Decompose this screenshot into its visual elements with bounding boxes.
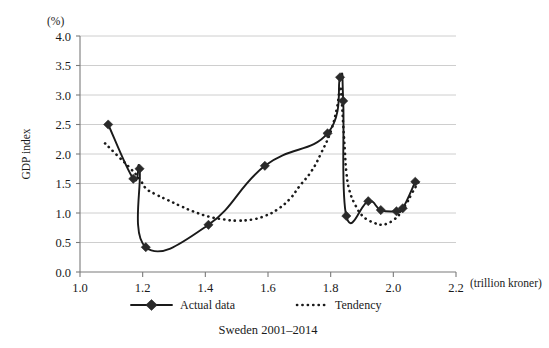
legend-label-actual-data: Actual data (180, 298, 236, 312)
y-axis-tick-labels: 0.00.51.01.52.02.53.03.54.0 (55, 30, 71, 280)
y-tick-label: 0.5 (55, 236, 71, 250)
y-tick-label: 1.0 (55, 207, 71, 221)
x-tick-label: 1.2 (135, 281, 151, 295)
x-tick-label: 2.0 (386, 281, 402, 295)
y-axis-unit-label: (%) (47, 15, 64, 28)
chart-background (0, 0, 549, 348)
x-tick-label: 1.8 (323, 281, 339, 295)
chart-figure: 0.00.51.01.52.02.53.03.54.0 1.01.21.41.6… (0, 0, 549, 348)
legend-label-tendency: Tendency (335, 298, 381, 312)
y-tick-label: 2.0 (55, 148, 71, 162)
y-tick-label: 0.0 (55, 266, 71, 280)
chart-caption: Sweden 2001–2014 (219, 323, 319, 337)
x-tick-label: 1.6 (260, 281, 276, 295)
gdp-index-scatter-line-chart: 0.00.51.01.52.02.53.03.54.0 1.01.21.41.6… (0, 0, 549, 348)
y-axis-title: GDP index (20, 128, 32, 179)
x-tick-label: 2.2 (448, 281, 464, 295)
x-tick-label: 1.4 (198, 281, 214, 295)
y-tick-label: 2.5 (55, 118, 71, 132)
y-tick-label: 1.5 (55, 177, 71, 191)
y-tick-label: 3.0 (55, 89, 71, 103)
x-tick-label: 1.0 (72, 281, 88, 295)
y-tick-label: 4.0 (55, 30, 71, 44)
y-tick-label: 3.5 (55, 59, 71, 73)
x-axis-unit-label: (trillion kroner) (470, 277, 542, 290)
